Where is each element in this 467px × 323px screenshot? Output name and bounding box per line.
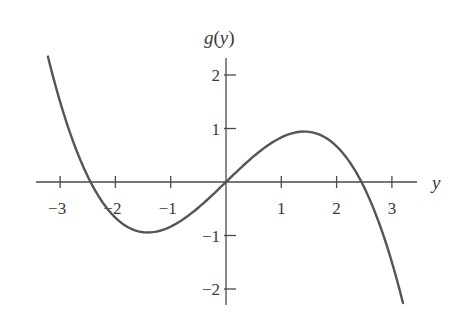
y-tick-label: −1 <box>202 227 220 246</box>
y-tick-label: −2 <box>202 280 220 299</box>
x-axis-label: y <box>430 172 441 193</box>
x-tick-label: 1 <box>277 199 286 218</box>
y-axis-label-close: ) <box>228 27 234 49</box>
y-axis-label-fn: g <box>204 27 214 48</box>
y-axis-label-var: y <box>218 27 229 48</box>
y-axis-label: g(y) <box>204 27 235 49</box>
chart: −3−2−112321−1−2 y g(y) <box>0 0 467 323</box>
x-tick-label: −3 <box>48 199 66 218</box>
x-tick-label: 2 <box>332 199 341 218</box>
y-tick-label: 2 <box>212 66 221 85</box>
y-tick-label: 1 <box>212 120 221 139</box>
x-tick-label: −1 <box>159 199 177 218</box>
x-tick-label: 3 <box>388 199 397 218</box>
plot-area: −3−2−112321−1−2 y g(y) <box>0 0 467 323</box>
